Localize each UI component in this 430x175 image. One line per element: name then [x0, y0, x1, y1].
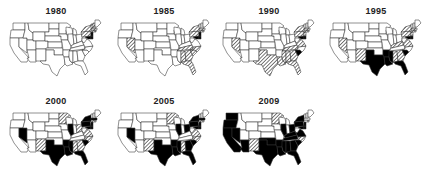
state-ri	[308, 30, 309, 32]
state-de	[199, 126, 201, 129]
state-ri	[95, 30, 96, 32]
state-nh	[93, 23, 95, 28]
state-ri	[203, 30, 204, 32]
map-panel-1990: 1990	[216, 6, 322, 84]
state-nm	[36, 49, 46, 61]
state-mi	[73, 28, 77, 35]
state-mi	[286, 118, 290, 125]
state-nh	[201, 113, 203, 118]
state-ct	[304, 30, 308, 32]
state-wa	[226, 23, 238, 30]
state-nd	[157, 23, 167, 29]
state-ma	[91, 28, 97, 30]
state-vt	[199, 114, 201, 118]
state-me	[203, 20, 209, 27]
state-fl	[74, 151, 88, 165]
state-nj	[91, 32, 93, 36]
panel-year-label: 1985	[111, 6, 217, 16]
state-ks	[48, 132, 62, 138]
panel-year-label: 1995	[323, 6, 429, 16]
state-fl	[74, 61, 88, 75]
state-ut	[27, 130, 36, 140]
us-map	[113, 19, 215, 83]
state-ks	[156, 42, 170, 48]
us-map	[218, 109, 320, 173]
state-wa	[13, 23, 25, 30]
state-de	[199, 36, 201, 39]
state-ut	[135, 40, 144, 50]
state-az	[27, 50, 36, 62]
state-ma	[411, 28, 417, 30]
map-panel-1995: 1995	[323, 6, 429, 84]
state-ct	[91, 120, 95, 122]
state-nd	[262, 23, 272, 29]
map-panel-2000: 2000	[3, 96, 109, 174]
state-wy	[246, 122, 258, 131]
state-nm	[356, 49, 366, 61]
state-wa	[333, 23, 345, 30]
state-or	[10, 30, 25, 38]
state-ri	[203, 120, 204, 122]
state-az	[27, 140, 36, 152]
panel-year-label: 2000	[3, 96, 109, 106]
state-nm	[144, 49, 154, 61]
state-nm	[249, 49, 259, 61]
state-ne	[258, 36, 275, 42]
state-ri	[95, 120, 96, 122]
state-ct	[199, 120, 203, 122]
state-ri	[308, 120, 309, 122]
state-ma	[91, 118, 97, 120]
state-ut	[347, 40, 356, 50]
state-ks	[368, 42, 382, 48]
state-me	[95, 20, 101, 27]
state-mt	[241, 113, 262, 123]
state-mt	[348, 23, 369, 33]
state-mi	[286, 28, 290, 35]
state-ut	[135, 130, 144, 140]
state-ut	[27, 40, 36, 50]
state-ct	[304, 120, 308, 122]
state-mt	[28, 23, 49, 33]
state-vt	[304, 24, 306, 28]
panel-year-label: 1980	[3, 6, 109, 16]
state-nm	[144, 139, 154, 151]
state-nd	[262, 113, 272, 119]
state-ne	[258, 126, 275, 132]
state-mi	[181, 118, 185, 125]
map-panel-1980: 1980	[3, 6, 109, 84]
state-nd	[49, 113, 59, 119]
state-ne	[45, 36, 62, 42]
state-nj	[199, 122, 201, 126]
map-panel-2009: 2009	[216, 96, 322, 174]
state-nd	[49, 23, 59, 29]
state-fl	[182, 61, 196, 75]
us-map	[113, 109, 215, 173]
state-vt	[91, 114, 93, 118]
state-mi	[393, 28, 397, 35]
us-map	[218, 19, 320, 83]
state-wy	[353, 32, 365, 41]
map-panel-1985: 1985	[111, 6, 217, 84]
state-ne	[153, 36, 170, 42]
state-wy	[141, 122, 153, 131]
state-me	[308, 110, 314, 117]
state-de	[91, 126, 93, 129]
state-me	[95, 110, 101, 117]
state-az	[135, 140, 144, 152]
state-ct	[411, 30, 415, 32]
us-map	[5, 19, 107, 83]
state-or	[118, 30, 133, 38]
state-nh	[306, 113, 308, 118]
state-ut	[240, 40, 249, 50]
state-wa	[226, 113, 238, 120]
state-mt	[241, 23, 262, 33]
state-fl	[182, 151, 196, 165]
state-de	[91, 36, 93, 39]
state-or	[223, 120, 238, 128]
state-mi	[181, 28, 185, 35]
state-mt	[136, 113, 157, 123]
state-az	[135, 50, 144, 62]
state-ct	[91, 30, 95, 32]
state-nh	[306, 23, 308, 28]
panel-year-label: 2009	[216, 96, 322, 106]
